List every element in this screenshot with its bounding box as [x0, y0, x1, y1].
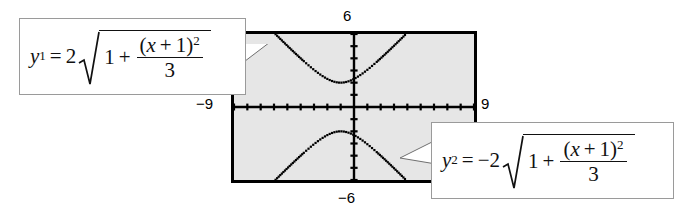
y2-num-close: ): [610, 137, 617, 161]
y2-fraction: (x+1)2 3: [560, 138, 626, 185]
y2-equals: =: [462, 148, 474, 173]
y1-fraction: (x+1)2 3: [137, 34, 203, 81]
y1-fraction-denominator: 3: [161, 58, 178, 81]
equation-callout-y1: y1 = 2 1 + (x+1)2 3: [19, 18, 246, 95]
figure-canvas: 6 −6 −9 9 y1 = 2: [0, 0, 684, 217]
y1-radicand: 1 + (x+1)2 3: [99, 30, 211, 83]
equation-y1: y1 = 2 1 + (x+1)2 3: [30, 30, 211, 83]
axis-label-ymax: 6: [343, 8, 351, 23]
axis-label-xmax: 9: [481, 96, 489, 111]
y2-num-op: +: [584, 137, 596, 161]
y1-num-one: 1: [176, 33, 187, 57]
y1-num-exponent: 2: [193, 34, 200, 47]
radical-sign-icon: [502, 134, 524, 187]
axis-label-xmin: −9: [196, 96, 213, 111]
y1-radical: 1 + (x+1)2 3: [78, 30, 211, 83]
y2-radicand: 1 + (x+1)2 3: [523, 134, 635, 187]
y1-variable: y: [30, 44, 39, 69]
y2-fraction-denominator: 3: [585, 162, 602, 185]
y1-radicand-op: +: [119, 45, 131, 70]
y2-radical: 1 + (x+1)2 3: [502, 134, 635, 187]
y1-num-close: ): [186, 33, 193, 57]
y2-num-var: x: [570, 137, 579, 161]
y1-radicand-first: 1: [104, 45, 115, 70]
y2-coefficient: −2: [478, 148, 500, 173]
equation-callout-y2: y2 = −2 1 + (x+1)2 3: [431, 122, 674, 199]
equation-y2: y2 = −2 1 + (x+1)2 3: [442, 134, 635, 187]
y2-radicand-op: +: [543, 149, 555, 174]
y2-num-one: 1: [600, 137, 611, 161]
y1-subscript: 1: [39, 48, 46, 64]
y1-num-var: x: [147, 33, 156, 57]
y2-variable: y: [442, 148, 451, 173]
y1-coefficient: 2: [66, 44, 77, 69]
y1-equals: =: [50, 44, 62, 69]
y1-num-op: +: [160, 33, 172, 57]
y1-fraction-numerator: (x+1)2: [137, 34, 203, 57]
radical-sign-icon: [78, 30, 100, 83]
y1-num-open: (: [140, 33, 147, 57]
y2-radicand-first: 1: [528, 149, 539, 174]
axis-label-ymin: −6: [338, 190, 355, 205]
y2-fraction-numerator: (x+1)2: [560, 138, 626, 161]
y2-num-exponent: 2: [617, 138, 624, 151]
y2-subscript: 2: [451, 152, 458, 168]
